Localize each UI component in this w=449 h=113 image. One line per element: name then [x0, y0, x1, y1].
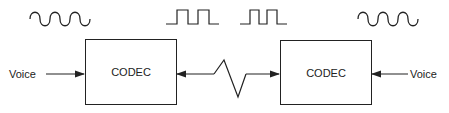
codec-label-right: CODEC	[306, 67, 346, 79]
voice-label-left: Voice	[9, 68, 36, 80]
diagram-canvas	[0, 0, 449, 113]
codec-box-right: CODEC	[280, 40, 372, 105]
codec-label-left: CODEC	[111, 66, 151, 78]
codec-box-left: CODEC	[85, 39, 177, 105]
sine-wave-icon	[358, 12, 418, 26]
sine-wave-icon	[30, 12, 90, 26]
voice-label-right: Voice	[410, 68, 437, 80]
square-wave-icon	[166, 10, 219, 24]
square-wave-icon	[240, 10, 287, 24]
transmission-link-zigzag-icon	[214, 60, 246, 97]
